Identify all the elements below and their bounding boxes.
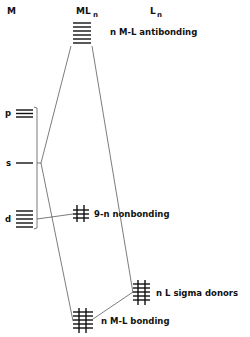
- mo-diagram: M ML n L n p s d n M-L antibonding: [0, 0, 250, 337]
- header-ligand-main: L: [150, 6, 156, 16]
- nonbonding-level: 9-n nonbonding: [73, 205, 170, 222]
- metal-d-level: d: [5, 211, 33, 227]
- header-ligand: L n: [150, 6, 162, 19]
- sigma-donors-level: n L sigma donors: [133, 280, 238, 305]
- header-metal: M: [7, 6, 16, 16]
- header-ligand-sub: n: [157, 11, 162, 19]
- metal-s-level: s: [6, 158, 33, 168]
- antibonding-label: n M-L antibonding: [110, 27, 197, 37]
- header-complex-sub: n: [93, 11, 98, 19]
- nonbonding-label: 9-n nonbonding: [94, 209, 170, 219]
- metal-p-level: p: [5, 108, 33, 118]
- metal-p-label: p: [5, 108, 11, 118]
- correlation-lines: [37, 46, 133, 321]
- header-complex-main: ML: [76, 6, 91, 16]
- metal-bracket: [34, 107, 37, 229]
- bonding-level: n M-L bonding: [73, 308, 169, 333]
- metal-d-label: d: [5, 214, 11, 224]
- antibonding-level: n M-L antibonding: [73, 23, 197, 43]
- metal-s-label: s: [6, 158, 11, 168]
- header-complex: ML n: [76, 6, 98, 19]
- sigma-donors-label: n L sigma donors: [156, 288, 238, 298]
- bonding-label: n M-L bonding: [101, 316, 169, 326]
